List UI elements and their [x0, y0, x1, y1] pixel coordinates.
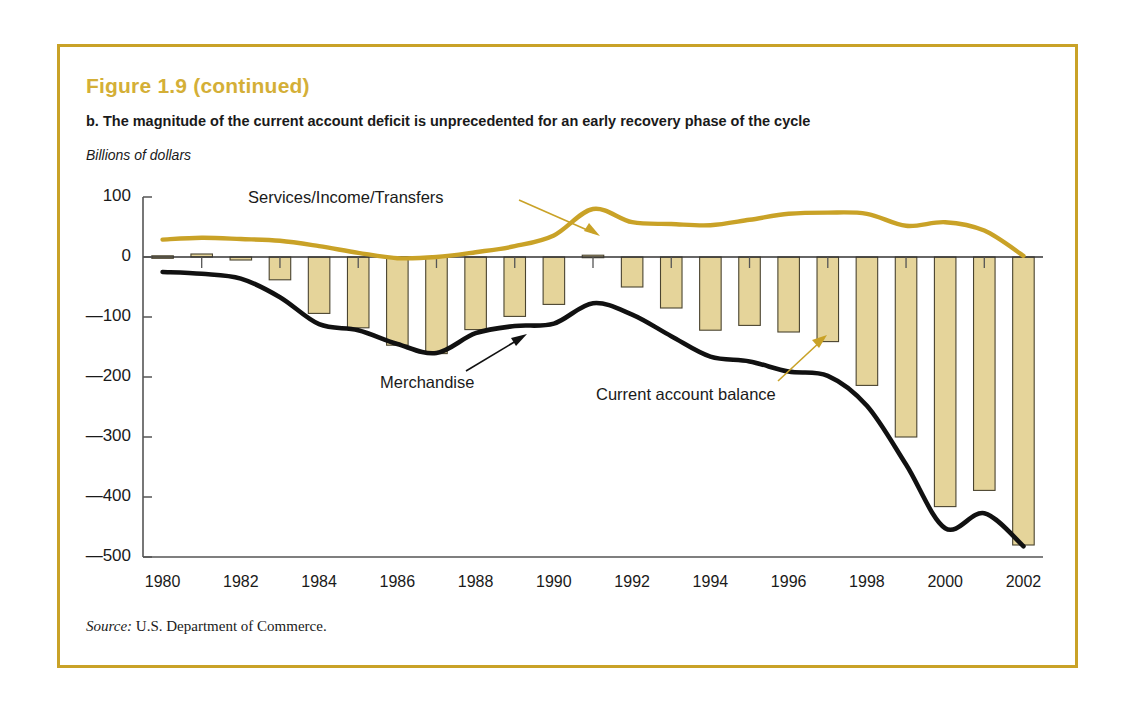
y-tick-label-100: 100 — [71, 186, 131, 206]
bar-1999 — [895, 257, 917, 437]
y-tick-label--300: —300 — [71, 426, 131, 446]
annotation-merchandise: Merchandise — [380, 373, 474, 392]
bar-1990 — [543, 257, 565, 304]
merchandise-arrow-head — [511, 334, 527, 346]
bar-1986 — [387, 257, 409, 345]
y-tick-label--200: —200 — [71, 366, 131, 386]
bar-1988 — [465, 257, 487, 330]
bar-1987 — [426, 257, 448, 354]
bar-1996 — [778, 257, 800, 332]
x-tick-label-2002: 2002 — [993, 573, 1053, 591]
bar-1998 — [856, 257, 878, 385]
bar-2002 — [1013, 257, 1035, 545]
figure-page: Figure 1.9 (continued) b. The magnitude … — [0, 0, 1134, 716]
y-tick-label--400: —400 — [71, 486, 131, 506]
annotation-current-account-balance: Current account balance — [596, 385, 776, 404]
x-tick-label-1992: 1992 — [602, 573, 662, 591]
services-arrow-head — [584, 223, 600, 236]
bar-2001 — [974, 257, 996, 490]
x-tick-label-1984: 1984 — [289, 573, 349, 591]
x-tick-label-1990: 1990 — [524, 573, 584, 591]
x-tick-label-1986: 1986 — [367, 573, 427, 591]
y-tick-label--500: —500 — [71, 546, 131, 566]
bar-1994 — [700, 257, 722, 330]
bar-1984 — [308, 257, 330, 313]
x-tick-label-1998: 1998 — [837, 573, 897, 591]
x-tick-label-1996: 1996 — [759, 573, 819, 591]
chart-canvas — [0, 0, 1134, 716]
annotation-services-income-transfers: Services/Income/Transfers — [248, 188, 444, 207]
x-tick-label-2000: 2000 — [915, 573, 975, 591]
bar-2000 — [934, 257, 956, 507]
line-merchandise — [163, 272, 1024, 546]
y-tick-label-0: 0 — [71, 246, 131, 266]
y-tick-label--100: —100 — [71, 306, 131, 326]
x-tick-label-1988: 1988 — [446, 573, 506, 591]
x-tick-label-1980: 1980 — [133, 573, 193, 591]
bar-1992 — [621, 257, 643, 287]
bar-1997 — [817, 257, 839, 342]
merchandise-arrow — [466, 338, 521, 371]
services-arrow — [519, 200, 594, 233]
x-tick-label-1982: 1982 — [211, 573, 271, 591]
x-tick-label-1994: 1994 — [680, 573, 740, 591]
